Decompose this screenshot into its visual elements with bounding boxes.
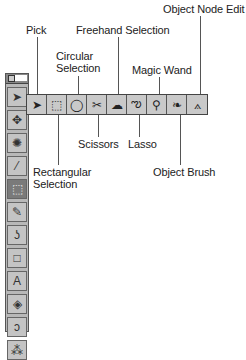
object-brush-icon[interactable]: ❧ xyxy=(167,95,187,114)
magic-wand-icon[interactable]: ⚲ xyxy=(147,95,167,114)
selection-flyout-toolbar: ➤ ⬚ ◯ ✂ ☁ ఌ ⚲ ❧ ⟑ xyxy=(26,94,208,115)
label-freehand-selection: Freehand Selection xyxy=(76,24,170,36)
pick-tool-icon[interactable]: ➤ xyxy=(7,87,27,107)
scissors-icon[interactable]: ✂ xyxy=(87,95,107,114)
label-circular-selection-2: Selection xyxy=(56,62,100,74)
lasso-icon[interactable]: ఌ xyxy=(127,95,147,114)
mask-selection-tool-icon[interactable]: ⬚ xyxy=(7,179,27,199)
label-object-node-edit: Object Node Edit xyxy=(163,3,245,15)
leader-line-freehand xyxy=(118,37,119,94)
effect-brush-tool-icon[interactable]: ʖ xyxy=(7,225,27,245)
clone-tool-icon[interactable]: ↄ xyxy=(7,317,27,337)
leader-line-rectangular xyxy=(58,115,59,165)
toolbox-title-bar[interactable] xyxy=(6,74,28,84)
leader-line-object-node xyxy=(200,16,201,94)
object-node-edit-icon[interactable]: ⟑ xyxy=(187,95,207,114)
text-tool-icon[interactable]: A xyxy=(7,271,27,291)
rectangle-tool-icon[interactable]: □ xyxy=(7,248,27,268)
fill-tool-icon[interactable]: ◈ xyxy=(7,294,27,314)
pick-icon[interactable]: ➤ xyxy=(27,95,47,114)
label-object-brush: Object Brush xyxy=(153,166,215,178)
color-tool-icon[interactable]: ✺ xyxy=(7,133,27,153)
circular-selection-icon[interactable]: ◯ xyxy=(67,95,87,114)
image-sprayer-tool-icon[interactable]: ⁂ xyxy=(7,340,27,360)
leader-line-scissors xyxy=(98,115,99,137)
label-rectangular-selection-1: Rectangular xyxy=(33,166,91,178)
close-box[interactable] xyxy=(8,75,15,82)
label-rectangular-selection-2: Selection xyxy=(33,178,77,190)
leader-line-circular xyxy=(78,76,79,94)
leader-line-magic-wand xyxy=(159,77,160,94)
label-pick: Pick xyxy=(26,24,46,36)
label-circular-selection-1: Circular xyxy=(56,50,93,62)
leader-line-lasso xyxy=(139,115,140,137)
label-magic-wand: Magic Wand xyxy=(132,64,192,76)
freehand-selection-icon[interactable]: ☁ xyxy=(107,95,127,114)
label-lasso: Lasso xyxy=(128,138,157,150)
paintbrush-tool-icon[interactable]: ✎ xyxy=(7,202,27,222)
leader-line-object-brush xyxy=(180,115,181,165)
zoom-pan-tool-icon[interactable]: ✥ xyxy=(7,110,27,130)
label-scissors: Scissors xyxy=(78,138,119,150)
rectangular-selection-icon[interactable]: ⬚ xyxy=(47,95,67,114)
title-field xyxy=(15,75,27,81)
eyedropper-tool-icon[interactable]: ⁄ xyxy=(7,156,27,176)
leader-line-pick xyxy=(37,37,38,94)
